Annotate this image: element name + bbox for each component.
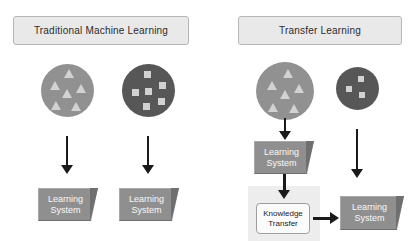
triangle-icon: [76, 84, 86, 93]
arrow-knowledge-transfer-to-target-system: [313, 217, 331, 220]
square-icon: [132, 89, 139, 96]
label-line-1: Learning: [264, 147, 299, 158]
triangle-icon: [268, 103, 278, 112]
label-line-2: System: [266, 158, 296, 169]
square-icon: [145, 88, 152, 95]
triangle-icon: [280, 90, 290, 99]
learning-system-label: Learning System: [340, 196, 404, 230]
header-transfer-learning: Transfer Learning: [238, 16, 402, 45]
arrow-head-icon: [351, 169, 363, 178]
learning-system-block-target: Learning System: [340, 196, 404, 230]
square-icon: [143, 103, 150, 110]
left-target-domain-circle: [122, 64, 175, 117]
arrow-head-icon: [142, 165, 154, 174]
square-icon: [346, 86, 352, 92]
triangle-icon: [51, 101, 61, 110]
arrow-head-icon: [61, 165, 73, 174]
arrow-head-icon: [330, 212, 339, 224]
square-icon: [359, 92, 365, 98]
label-line-2: System: [131, 205, 161, 216]
label-line-1: Learning: [352, 202, 387, 213]
triangle-icon: [71, 102, 81, 111]
diagram-canvas: Traditional Machine Learning Learning Sy…: [0, 0, 415, 241]
arrow-right-target-to-system: [356, 129, 358, 172]
right-source-domain-circle: [256, 62, 314, 120]
triangle-icon: [64, 69, 74, 78]
square-icon: [159, 82, 166, 89]
learning-system-block-left-2: Learning System: [119, 188, 179, 221]
triangle-icon: [50, 81, 60, 90]
triangle-icon: [62, 89, 72, 98]
triangle-icon: [294, 84, 304, 93]
square-icon: [158, 98, 165, 105]
learning-system-label: Learning System: [119, 188, 179, 221]
left-source-domain-circle: [41, 64, 94, 117]
header-traditional-machine-learning: Traditional Machine Learning: [13, 16, 189, 45]
arrow-head-icon: [279, 131, 291, 140]
learning-system-block-left-1: Learning System: [38, 188, 98, 221]
label-line-1: Learning: [129, 194, 164, 205]
arrow-left-source-to-system: [66, 136, 68, 168]
triangle-icon: [289, 104, 299, 113]
label-line-2: System: [50, 205, 80, 216]
header-traditional-label: Traditional Machine Learning: [34, 25, 168, 36]
triangle-icon: [283, 69, 293, 78]
learning-system-label: Learning System: [254, 141, 314, 174]
square-icon: [144, 71, 151, 78]
knowledge-transfer-line-1: Knowledge: [263, 209, 303, 219]
label-line-1: Learning: [48, 194, 83, 205]
triangle-icon: [267, 81, 277, 90]
header-transfer-label: Transfer Learning: [279, 25, 361, 36]
right-target-domain-circle: [336, 67, 379, 110]
knowledge-transfer-box: Knowledge Transfer: [256, 203, 310, 234]
learning-system-label: Learning System: [38, 188, 98, 221]
arrow-head-icon: [278, 190, 290, 199]
knowledge-transfer-line-2: Transfer: [268, 219, 298, 229]
arrow-left-target-to-system: [147, 136, 149, 168]
square-icon: [358, 76, 364, 82]
learning-system-block-source: Learning System: [254, 141, 314, 174]
label-line-2: System: [354, 213, 384, 224]
